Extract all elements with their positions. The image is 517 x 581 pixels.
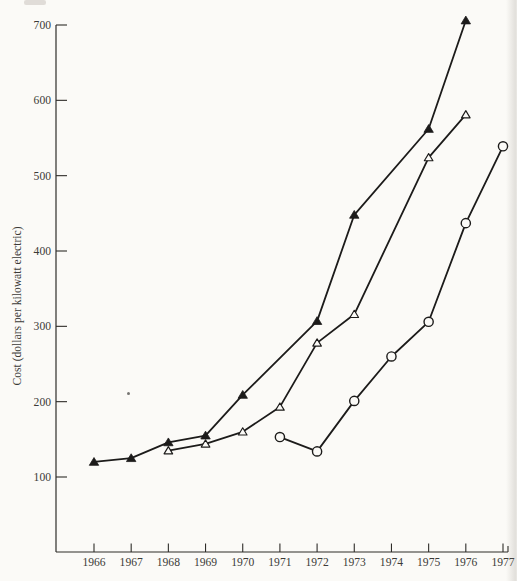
x-tick-label: 1976 (454, 556, 477, 569)
x-tick-label: 1966 (82, 556, 105, 569)
y-tick-label: 100 (34, 471, 52, 484)
marker-open-triangle (276, 403, 285, 410)
x-tick-label: 1975 (417, 556, 440, 569)
marker-open-triangle (350, 310, 359, 317)
y-axis-title: Cost (dollars per kilowatt electric) (11, 226, 24, 385)
series-line-open-triangle-series (168, 115, 465, 451)
marker-filled-triangle (424, 125, 433, 133)
marker-open-circle (387, 352, 396, 361)
cost-trend-chart: 100200300400500600700 196619671968196919… (0, 0, 517, 581)
marker-filled-triangle (461, 16, 470, 24)
marker-open-circle (350, 396, 359, 405)
series-line-open-circle-series (280, 146, 503, 451)
marker-filled-triangle (312, 317, 321, 325)
x-tick-label: 1969 (194, 556, 217, 569)
y-tick-label: 400 (34, 245, 52, 258)
marker-open-circle (461, 219, 470, 228)
y-tick-label: 300 (34, 320, 52, 333)
x-tick-label: 1972 (305, 556, 328, 569)
y-tick-label: 200 (34, 396, 52, 409)
scanned-chart-page: 100200300400500600700 196619671968196919… (0, 0, 517, 581)
x-tick-label: 1970 (231, 556, 254, 569)
series-line-filled-triangle-series (94, 21, 466, 462)
marker-open-circle (498, 142, 507, 151)
y-tick-label: 600 (34, 94, 52, 107)
data-series (89, 16, 507, 465)
marker-open-circle (275, 432, 284, 441)
x-axis: 1966196719681969197019711972197319741975… (56, 544, 515, 570)
y-axis: 100200300400500600700 (34, 19, 67, 552)
y-tick-label: 700 (34, 19, 52, 32)
x-tick-label: 1974 (380, 556, 403, 569)
y-tick-label: 500 (34, 170, 52, 183)
marker-open-circle (312, 447, 321, 456)
x-tick-label: 1973 (343, 556, 366, 569)
marker-open-triangle (462, 111, 471, 118)
x-tick-label: 1968 (157, 556, 180, 569)
x-tick-label: 1977 (491, 556, 514, 569)
x-tick-label: 1971 (268, 556, 291, 569)
marker-open-circle (424, 317, 433, 326)
x-tick-label: 1967 (120, 556, 143, 569)
